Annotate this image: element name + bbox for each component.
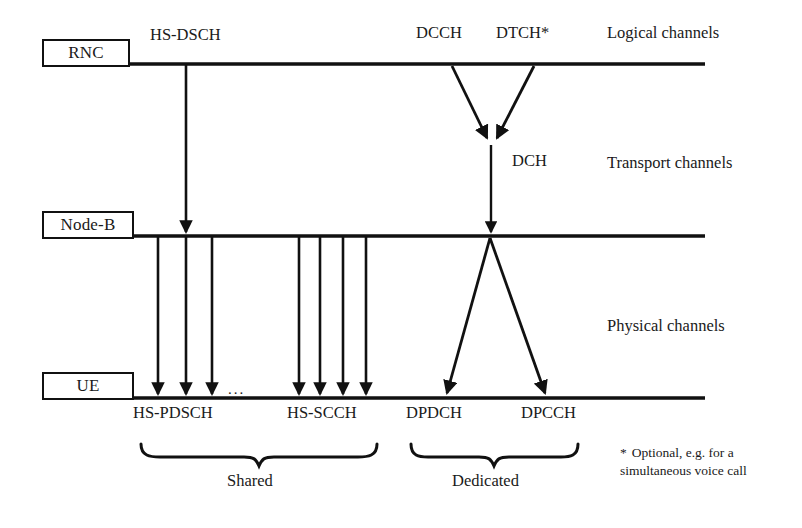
channel-mapping-diagram: RNC Node-B UE Logical channels Transport… bbox=[0, 0, 802, 528]
footnote: *Optional, e.g. for a simultaneous voice… bbox=[620, 444, 792, 480]
arrow-dpcch bbox=[490, 238, 545, 393]
layer-label-physical: Physical channels bbox=[607, 317, 725, 336]
channel-label-dch: DCH bbox=[512, 152, 547, 171]
group-label-dedicated: Dedicated bbox=[452, 472, 519, 491]
arrow-dpdch bbox=[447, 238, 490, 393]
brace-shared bbox=[141, 444, 377, 466]
node-box-nodeb[interactable]: Node-B bbox=[42, 211, 134, 239]
footnote-marker: * bbox=[620, 445, 627, 460]
node-label-nodeb: Node-B bbox=[60, 215, 115, 235]
channel-label-hs-pdsch: HS-PDSCH bbox=[133, 404, 213, 423]
arrow-dcch bbox=[452, 66, 487, 138]
brace-dedicated bbox=[411, 444, 578, 466]
node-box-ue[interactable]: UE bbox=[42, 372, 134, 400]
channel-label-hs-dsch: HS-DSCH bbox=[150, 26, 221, 45]
node-label-ue: UE bbox=[76, 376, 99, 396]
ellipsis-more-channels: ... bbox=[228, 381, 245, 398]
channel-label-dcch: DCCH bbox=[416, 24, 462, 43]
group-label-shared: Shared bbox=[227, 472, 273, 491]
node-label-rnc: RNC bbox=[68, 43, 104, 63]
layer-label-logical: Logical channels bbox=[607, 24, 719, 43]
channel-label-dtch: DTCH* bbox=[496, 24, 549, 43]
footnote-text: Optional, e.g. for a simultaneous voice … bbox=[620, 445, 747, 478]
channel-label-dpdch: DPDCH bbox=[406, 404, 462, 423]
channel-label-dpcch: DPCCH bbox=[521, 404, 576, 423]
arrow-dtch bbox=[497, 66, 534, 138]
channel-label-hs-scch: HS-SCCH bbox=[287, 404, 357, 423]
node-box-rnc[interactable]: RNC bbox=[42, 39, 130, 67]
layer-label-transport: Transport channels bbox=[607, 154, 732, 173]
